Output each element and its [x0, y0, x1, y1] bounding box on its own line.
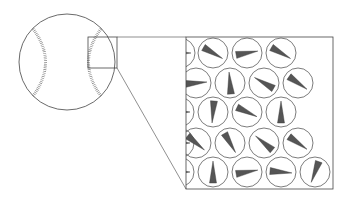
orientation-wedge-icon — [253, 133, 274, 153]
orientation-wedge-icon — [278, 101, 285, 123]
domain-cell — [165, 38, 195, 68]
orientation-wedge-icon — [168, 169, 190, 176]
orientation-wedge-icon — [308, 160, 322, 183]
domain-cell — [198, 97, 228, 127]
orientation-wedge-icon — [210, 161, 217, 183]
orientation-wedge-icon — [270, 168, 293, 177]
domain-cell — [164, 157, 194, 187]
domain-cell — [266, 97, 296, 127]
orientation-wedge-icon — [168, 140, 190, 147]
domain-cell — [198, 157, 228, 187]
domain-cell — [181, 128, 211, 158]
orientation-wedge-icon — [236, 104, 259, 120]
connector-line-bottom — [117, 68, 186, 189]
orientation-wedge-icon — [221, 132, 238, 155]
domain-cell — [198, 38, 228, 68]
magnified-detail-box — [186, 37, 333, 189]
domain-cell — [215, 128, 245, 158]
domain-cell — [164, 128, 194, 158]
magnify-region-box — [88, 37, 117, 68]
domain-cell — [164, 97, 194, 127]
orientation-wedge-icon — [168, 109, 190, 116]
domain-cell — [232, 157, 262, 187]
domain-cell — [283, 68, 313, 98]
orientation-wedge-icon — [253, 74, 276, 91]
orientation-wedge-icon — [202, 44, 225, 61]
domain-cell — [249, 68, 279, 98]
baseball — [19, 14, 115, 110]
domain-cell — [181, 68, 211, 98]
domain-cell — [215, 68, 245, 98]
domain-cell — [300, 157, 330, 187]
domain-cell — [266, 157, 296, 187]
orientation-wedge-icon — [185, 79, 208, 88]
baseball-seam-right — [89, 29, 102, 96]
orientation-wedge-icon — [169, 50, 191, 57]
orientation-wedge-icon — [209, 101, 218, 124]
domain-cell — [232, 38, 262, 68]
domain-cell — [266, 38, 296, 68]
domain-cell — [249, 128, 279, 158]
domain-cell — [232, 97, 262, 127]
orientation-wedge-icon — [226, 72, 235, 95]
baseball-domain-diagram — [0, 0, 349, 202]
domain-cell — [283, 128, 313, 158]
baseball-seam-left — [33, 29, 46, 96]
orientation-wedge-icon — [287, 134, 309, 152]
domain-grid — [164, 38, 330, 187]
orientation-wedge-icon — [236, 48, 259, 59]
orientation-wedge-icon — [270, 44, 293, 61]
orientation-wedge-icon — [236, 167, 259, 178]
orientation-wedge-icon — [287, 74, 309, 92]
